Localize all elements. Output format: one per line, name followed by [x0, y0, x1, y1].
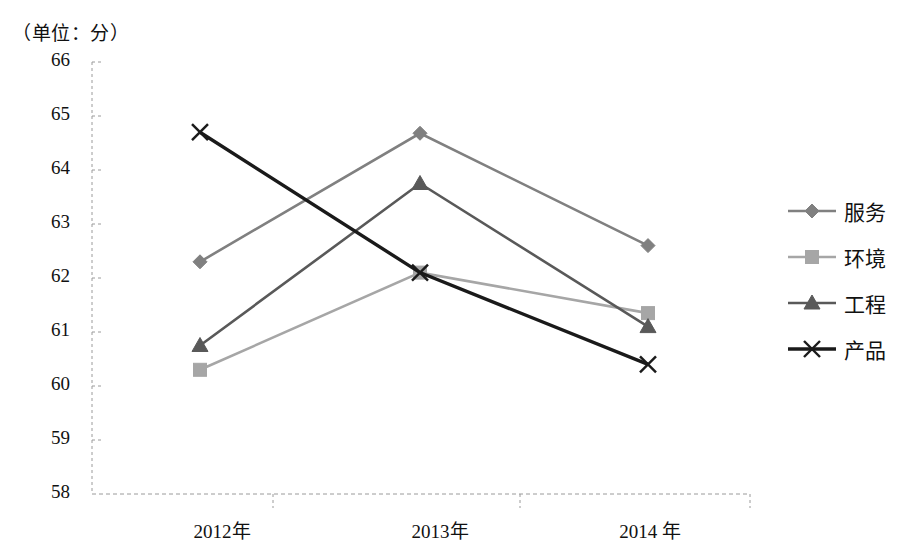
series-工程 — [192, 176, 656, 352]
x-tick-label: 2014 年 — [590, 516, 710, 543]
marker-x — [192, 124, 208, 140]
marker-diamond — [193, 255, 207, 269]
marker-triangle — [412, 176, 428, 190]
legend-marker-triangle-icon — [786, 292, 838, 314]
legend-label: 工程 — [844, 288, 886, 318]
y-tick-label: 63 — [26, 211, 70, 233]
legend-swatch-svg — [786, 200, 838, 222]
y-tick-label: 58 — [26, 481, 70, 503]
marker-diamond — [805, 204, 819, 218]
y-tick-label: 62 — [26, 265, 70, 287]
legend-label: 服务 — [844, 196, 886, 226]
legend-swatch-svg — [786, 338, 838, 360]
series-line — [200, 273, 648, 370]
y-tick-label: 61 — [26, 319, 70, 341]
series-环境 — [194, 266, 655, 376]
marker-triangle — [640, 319, 656, 333]
line-chart: （单位：分） 666564636261605958 2012年2013年2014… — [0, 0, 900, 560]
plot-area — [0, 0, 900, 560]
series-产品 — [192, 124, 656, 372]
marker-triangle — [192, 338, 208, 352]
legend-item-工程[interactable]: 工程 — [786, 280, 886, 326]
series-服务 — [193, 126, 655, 269]
legend-label: 产品 — [844, 334, 886, 364]
y-tick-label: 64 — [26, 157, 70, 179]
x-tick-label: 2012年 — [162, 516, 282, 543]
legend-marker-square-icon — [786, 246, 838, 268]
marker-square — [806, 251, 819, 264]
x-tick-label: 2013年 — [380, 516, 500, 543]
y-tick-label: 65 — [26, 103, 70, 125]
series-line — [200, 133, 648, 262]
y-tick-label: 66 — [26, 49, 70, 71]
marker-diamond — [641, 239, 655, 253]
legend-label: 环境 — [844, 242, 886, 272]
legend-marker-x-icon — [786, 338, 838, 360]
y-tick-label: 60 — [26, 373, 70, 395]
series-line — [200, 132, 648, 364]
legend-swatch-svg — [786, 246, 838, 268]
chart-legend: 服务环境工程产品 — [786, 188, 886, 372]
marker-x — [640, 356, 656, 372]
legend-item-环境[interactable]: 环境 — [786, 234, 886, 280]
legend-marker-diamond-icon — [786, 200, 838, 222]
legend-swatch-svg — [786, 292, 838, 314]
marker-diamond — [413, 126, 427, 140]
series-line — [200, 184, 648, 346]
y-tick-label: 59 — [26, 427, 70, 449]
legend-item-产品[interactable]: 产品 — [786, 326, 886, 372]
legend-item-服务[interactable]: 服务 — [786, 188, 886, 234]
marker-square — [194, 363, 207, 376]
